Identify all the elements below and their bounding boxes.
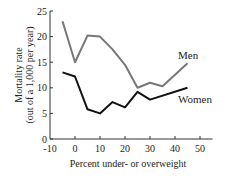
x-tick-label: 0 (73, 143, 78, 154)
series-line-men (63, 21, 188, 88)
y-tick-label: 25 (37, 6, 47, 17)
y-tick-label: 5 (42, 108, 47, 119)
line-chart: 0510152025-1001020304050 Men Women Perce… (0, 0, 226, 179)
y-tick-label: 10 (37, 82, 47, 93)
series-label-women: Women (178, 93, 212, 105)
x-tick-label: 50 (195, 143, 205, 154)
series-line-women (63, 72, 188, 113)
y-axis-sublabel: (out of a 1,000 per year) (24, 26, 36, 123)
y-tick-label: 15 (37, 57, 47, 68)
y-axis-label: Mortality rate (13, 47, 24, 103)
x-tick-label: 30 (145, 143, 155, 154)
x-tick-label: -10 (43, 143, 56, 154)
x-tick-label: 20 (120, 143, 130, 154)
series-lines (63, 21, 188, 113)
axes: 0510152025-1001020304050 (37, 6, 213, 155)
y-tick-label: 20 (37, 31, 47, 42)
series-label-men: Men (178, 49, 199, 61)
x-tick-label: 10 (95, 143, 105, 154)
x-tick-label: 40 (170, 143, 180, 154)
x-axis-label: Percent under- or overweight (70, 158, 187, 169)
